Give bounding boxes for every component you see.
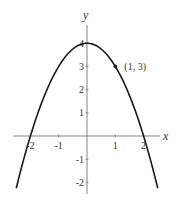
parabola-chart: -2-1124321-1-2 (1, 3) x y	[0, 0, 178, 206]
axes	[13, 25, 160, 194]
y-tick-label: 2	[79, 84, 84, 95]
y-tick-label: -2	[76, 177, 84, 188]
x-tick-label: 1	[113, 140, 118, 151]
x-tick-label: -1	[55, 140, 63, 151]
y-tick-label: -1	[76, 154, 84, 165]
point-label: (1, 3)	[124, 61, 146, 73]
x-axis-label: x	[162, 129, 169, 143]
y-axis-label: y	[82, 8, 89, 22]
y-tick-label: 3	[79, 61, 84, 72]
point-marker	[114, 65, 118, 69]
y-tick-label: 1	[79, 107, 84, 118]
